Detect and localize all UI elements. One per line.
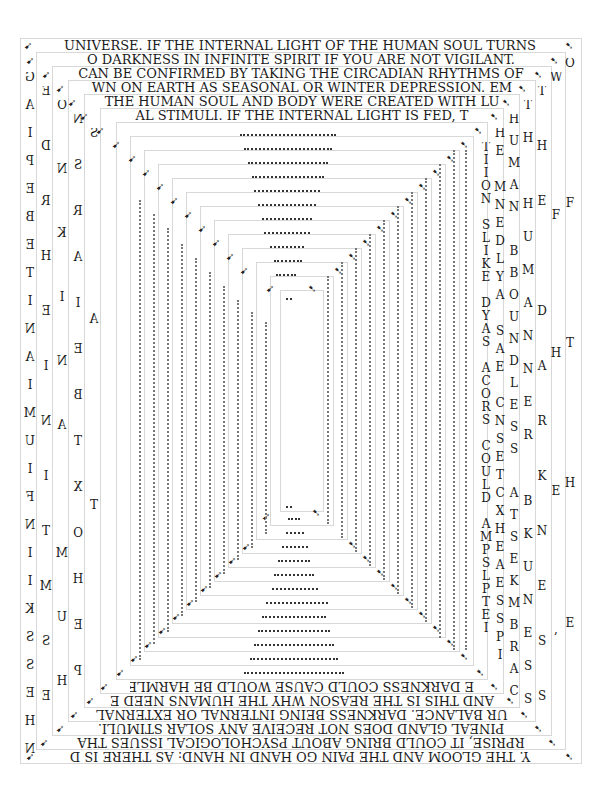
cursor-icon: ➷ — [490, 112, 498, 122]
column-letter: N — [522, 595, 534, 628]
cursor-icon: ➹ — [26, 56, 34, 66]
cursor-icon: ➹ — [68, 98, 76, 108]
bottom-text-line-2: AND THIS IS THE REASON WHY THE HUMANS NE… — [100, 693, 504, 707]
column-letter: H — [536, 141, 548, 196]
column-letter: E — [72, 344, 84, 390]
column-letter: T — [508, 510, 520, 532]
cursor-icon: ➹ — [184, 210, 192, 220]
cursor-icon: ➹ — [214, 570, 222, 580]
left-text-column-4: NSRAIEBTXOHEP — [72, 114, 84, 724]
cursor-icon: ➷ — [474, 126, 482, 136]
dotted-column — [327, 276, 331, 524]
column-letter: I — [56, 292, 68, 356]
column-letter: X — [72, 482, 84, 528]
cursor-icon: ➹ — [186, 598, 194, 608]
dotted-bar — [254, 644, 334, 648]
column-letter — [508, 466, 520, 488]
column-letter — [508, 224, 520, 246]
column-letter: B — [508, 246, 520, 268]
cursor-icon: ➹ — [56, 84, 64, 94]
dotted-column — [439, 164, 443, 638]
column-letter: A — [56, 420, 68, 484]
column-letter: H — [24, 716, 36, 744]
column-letter: N — [508, 202, 520, 224]
column-letter: N — [40, 416, 52, 471]
column-letter: H — [508, 114, 520, 136]
column-letter: U — [522, 562, 534, 595]
column-letter: E — [508, 554, 520, 576]
left-text-column-1: GAIPEBETINAIMUIFNIIKSSEHN — [24, 72, 36, 772]
column-letter: A — [508, 488, 520, 510]
column-letter: U — [24, 436, 36, 464]
column-letter: N — [536, 526, 548, 581]
cursor-icon: ➹ — [100, 682, 108, 692]
column-letter: S — [536, 636, 548, 691]
dotted-column — [139, 200, 143, 660]
column-letter: F — [564, 198, 576, 338]
column-letter: T — [522, 100, 534, 133]
dotted-column — [181, 244, 185, 616]
column-letter: S — [508, 532, 520, 554]
dotted-column — [195, 258, 199, 602]
column-letter: O — [564, 58, 576, 198]
column-letter: H — [522, 199, 534, 232]
dotted-column — [453, 150, 457, 650]
left-text-column-3: ONKINA MUH — [56, 100, 68, 740]
column-letter: A — [24, 352, 36, 380]
dotted-bar — [264, 232, 310, 236]
column-letter: E — [522, 397, 534, 430]
column-letter: K — [24, 604, 36, 632]
cursor-icon: ➹ — [158, 626, 166, 636]
dotted-column — [383, 220, 387, 580]
left-text-column-2: EDRHEINITMSE — [40, 86, 52, 756]
column-letter: E — [72, 620, 84, 666]
column-letter: T — [40, 526, 52, 581]
dotted-column — [355, 248, 359, 552]
column-letter: O — [56, 100, 68, 164]
cursor-icon: ➹ — [142, 168, 150, 178]
left-text-column-5: SAT — [88, 128, 100, 688]
cursor-icon: ➷ — [502, 98, 510, 108]
column-letter: G — [24, 72, 36, 100]
bottom-text-line-6: Y. THE GLOOM AND THE PAIN GO HAND IN HAN… — [40, 749, 560, 763]
dotted-bar — [240, 134, 336, 138]
column-letter: A — [522, 298, 534, 331]
column-letter: S — [24, 660, 36, 688]
column-letter: M — [522, 265, 534, 298]
top-text-line-1: UNIVERSE. IF THE INTERNAL LIGHT OF THE H… — [40, 39, 560, 53]
column-letter: U — [508, 312, 520, 334]
cursor-icon: ➹ — [200, 584, 208, 594]
cursor-icon: ➹ — [86, 696, 94, 706]
dotted-bar — [254, 190, 320, 194]
column-letter: N — [522, 364, 534, 397]
column-letter: , — [550, 624, 562, 762]
dotted-column — [397, 206, 401, 594]
column-letter: B — [508, 268, 520, 290]
cursor-icon: ➹ — [266, 284, 274, 294]
cursor-icon: ➹ — [172, 612, 180, 622]
cursor-icon: ➹ — [24, 41, 32, 51]
column-letter: E — [550, 486, 562, 624]
dotted-bar — [278, 560, 310, 564]
column-letter: N — [72, 114, 84, 160]
column-letter: H — [56, 676, 68, 740]
column-letter — [536, 251, 548, 306]
dotted-column — [237, 300, 241, 560]
column-letter: E — [24, 240, 36, 268]
column-letter: U — [522, 232, 534, 265]
cursor-icon: ➷ — [312, 508, 320, 518]
column-letter: E — [522, 628, 534, 661]
right-text-column-7: TIION SLIKE DYAS ACORS COULD AMPSLPTEI — [480, 142, 492, 672]
column-letter: R — [40, 196, 52, 251]
column-letter: N — [522, 331, 534, 364]
dotted-bar — [262, 218, 312, 222]
column-letter: E — [536, 196, 548, 251]
column-letter: I — [494, 650, 506, 668]
column-letter — [56, 484, 68, 548]
column-letter: N — [56, 356, 68, 420]
cursor-icon: ➹ — [240, 266, 248, 276]
dotted-bar — [248, 162, 328, 166]
column-letter: I — [480, 623, 492, 636]
column-letter: H — [40, 251, 52, 306]
column-letter: A — [24, 100, 36, 128]
